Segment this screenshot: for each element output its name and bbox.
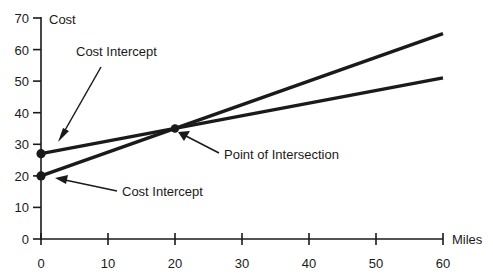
y-tick-label-0: 0 [22,232,29,247]
x-tick-label-40: 40 [302,256,316,271]
marker-cost-intercept-lower [36,171,45,180]
annotation-cost-intercept-upper: Cost Intercept [58,44,157,142]
cost-intercept-upper-arrowhead [58,128,69,142]
point-of-intersection-label: Point of Intersection [224,147,339,162]
cost-intercept-lower-label: Cost Intercept [122,184,203,199]
x-tick-label-60: 60 [436,256,450,271]
x-tick-label-50: 50 [369,256,383,271]
y-tick-label-30: 30 [15,137,29,152]
x-axis [41,233,443,245]
cost-intercept-lower-leader [65,180,117,191]
x-axis-title: Miles [452,232,483,247]
chart-canvas: 70 60 50 40 30 20 10 0 0 10 20 30 40 50 … [0,0,493,279]
cost-vs-miles-chart: 70 60 50 40 30 20 10 0 0 10 20 30 40 50 … [0,0,493,279]
series-flatter-cost-line [41,78,443,154]
x-tick-label-0: 0 [37,256,44,271]
y-tick-label-60: 60 [15,43,29,58]
annotation-cost-intercept-lower: Cost Intercept [55,175,203,199]
marker-point-of-intersection [171,124,179,132]
y-tick-label-20: 20 [15,169,29,184]
cost-intercept-upper-label: Cost Intercept [76,44,157,59]
point-of-intersection-leader [186,136,219,153]
x-tick-label-30: 30 [235,256,249,271]
y-tick-label-10: 10 [15,200,29,215]
x-tick-label-20: 20 [168,256,182,271]
y-tick-label-50: 50 [15,74,29,89]
y-tick-label-40: 40 [15,106,29,121]
cost-intercept-upper-leader [64,67,101,132]
y-axis [33,17,41,240]
y-tick-label-70: 70 [15,11,29,26]
marker-cost-intercept-upper [36,149,45,158]
y-axis-title: Cost [49,12,76,27]
x-tick-label-10: 10 [101,256,115,271]
point-of-intersection-arrowhead [178,131,190,141]
annotation-point-of-intersection: Point of Intersection [178,131,339,162]
cost-intercept-lower-arrowhead [55,175,68,184]
